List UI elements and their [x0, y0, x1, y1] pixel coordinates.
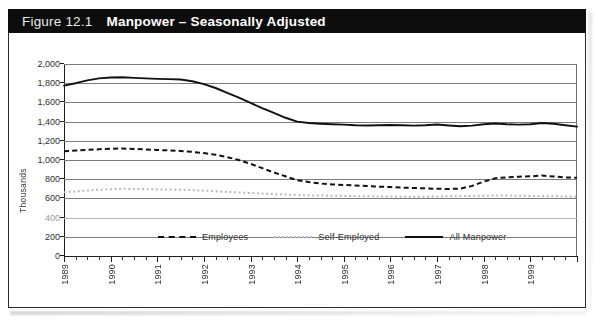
x-axis-tick-mark — [251, 256, 252, 262]
x-axis-tick-label: 1992 — [200, 264, 210, 285]
x-axis-tick-mark — [239, 256, 240, 260]
x-axis-tick-mark — [169, 256, 170, 260]
x-axis-tick-mark — [577, 256, 578, 262]
x-axis-tick-mark — [554, 256, 555, 260]
y-axis-tick-label: 400 — [45, 213, 60, 223]
legend-swatch-icon — [158, 236, 196, 238]
x-axis-tick-label: 1997 — [433, 264, 443, 285]
x-axis-tick-mark — [64, 256, 65, 262]
legend-item-all-manpower[interactable]: All Manpower — [405, 232, 506, 242]
x-axis-tick-mark — [495, 256, 496, 260]
x-axis-tick-mark — [297, 256, 298, 262]
x-axis-tick-mark — [262, 256, 263, 260]
x-axis-tick-mark — [507, 256, 508, 260]
x-axis-tick-mark — [344, 256, 345, 262]
legend-label: All Manpower — [449, 232, 506, 242]
x-axis-tick-mark — [519, 256, 520, 260]
legend-swatch-icon — [405, 236, 443, 238]
y-axis-tick-label: 200 — [45, 232, 60, 242]
x-axis-tick-mark — [390, 256, 391, 262]
x-axis-tick-mark — [204, 256, 205, 262]
x-axis-tick-mark — [274, 256, 275, 260]
x-axis-tick-mark — [87, 256, 88, 260]
chart-legend: EmployeesSelf-EmployedAll Manpower — [158, 229, 508, 245]
y-axis-tick-label: 1,800 — [37, 78, 60, 88]
x-axis-tick-mark — [192, 256, 193, 260]
x-axis-tick-label: 1993 — [247, 264, 257, 285]
x-axis-tick-mark — [99, 256, 100, 260]
x-axis-tick-label: 1990 — [107, 264, 117, 285]
plot-area: 2,0001,8001,6001,4001,2001,0008006004002… — [64, 64, 577, 256]
x-axis-tick-mark — [157, 256, 158, 262]
series-line-self-employed — [64, 189, 577, 197]
legend-label: Employees — [202, 232, 248, 242]
series-lines — [64, 64, 577, 256]
y-axis-tick-label: 1,400 — [37, 117, 60, 127]
scan-shadow-right — [588, 12, 592, 308]
y-axis-tick-label: 1,200 — [37, 136, 60, 146]
y-axis-tick-label: 1,600 — [37, 97, 60, 107]
x-axis-tick-mark — [379, 256, 380, 260]
x-axis-tick-mark — [286, 256, 287, 260]
x-axis-tick-mark — [227, 256, 228, 260]
legend-label: Self-Employed — [318, 232, 379, 242]
x-axis-tick-mark — [76, 256, 77, 260]
x-axis-tick-mark — [216, 256, 217, 260]
legend-item-self-employed[interactable]: Self-Employed — [274, 232, 379, 242]
legend-swatch-icon — [274, 236, 312, 238]
x-axis-tick-label: 1991 — [153, 264, 163, 285]
series-line-all-manpower — [64, 77, 577, 126]
x-axis-tick-mark — [484, 256, 485, 262]
x-axis-tick-mark — [530, 256, 531, 262]
x-axis-tick-mark — [425, 256, 426, 260]
x-axis-tick-mark — [367, 256, 368, 260]
x-axis-tick-mark — [181, 256, 182, 260]
x-axis-tick-mark — [321, 256, 322, 260]
figure-title: Manpower – Seasonally Adjusted — [107, 14, 326, 29]
y-axis-title: Thousands — [18, 151, 32, 231]
y-axis-tick-label: 2,000 — [37, 59, 60, 69]
x-axis-tick-mark — [355, 256, 356, 260]
chart-canvas: Thousands 2,0001,8001,6001,4001,2001,000… — [8, 33, 586, 308]
x-axis-tick-mark — [437, 256, 438, 262]
y-axis-tick-label: 600 — [45, 193, 60, 203]
x-axis-tick-label: 1998 — [480, 264, 490, 285]
x-axis-tick-mark — [309, 256, 310, 260]
scan-shadow-bottom — [10, 311, 586, 315]
x-axis-tick-mark — [122, 256, 123, 260]
x-axis-tick-mark — [565, 256, 566, 260]
x-axis-tick-label: 1996 — [386, 264, 396, 285]
y-axis-tick-label: 1,000 — [37, 155, 60, 165]
x-axis-tick-mark — [402, 256, 403, 260]
x-axis-tick-label: 1999 — [526, 264, 536, 285]
y-axis-tick-label: 800 — [45, 174, 60, 184]
x-axis-tick-mark — [414, 256, 415, 260]
figure-number: Figure 12.1 — [22, 14, 93, 29]
x-axis-tick-mark — [111, 256, 112, 262]
x-axis-tick-label: 1989 — [60, 264, 70, 285]
y-axis-tick-label: 0 — [55, 251, 60, 261]
x-axis-tick-mark — [449, 256, 450, 260]
x-axis-tick-mark — [134, 256, 135, 260]
series-line-employees — [64, 148, 577, 189]
x-axis-tick-mark — [332, 256, 333, 260]
figure-root: Figure 12.1 Manpower – Seasonally Adjust… — [0, 0, 596, 325]
x-axis-tick-mark — [542, 256, 543, 260]
figure-title-bar: Figure 12.1 Manpower – Seasonally Adjust… — [8, 9, 586, 33]
legend-item-employees[interactable]: Employees — [158, 232, 248, 242]
x-axis-tick-mark — [146, 256, 147, 260]
x-axis-tick-mark — [472, 256, 473, 260]
x-axis-tick-label: 1995 — [340, 264, 350, 285]
x-axis-tick-label: 1994 — [293, 264, 303, 285]
x-axis-tick-mark — [460, 256, 461, 260]
